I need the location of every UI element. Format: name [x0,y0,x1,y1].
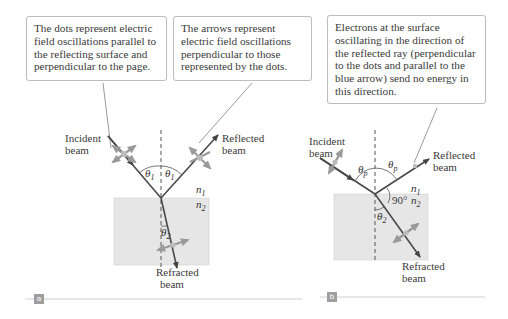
refracted-beam-label-a: Refracted beam [156,266,199,290]
label-line: Refracted [402,260,445,272]
theta1-incident-a: θ1 [145,167,154,182]
panel-tag-a: a [34,294,44,304]
label-line: beam [156,278,199,290]
n2-label-b: n2 [411,194,421,209]
reflected-beam-label-a: Reflected beam [222,132,264,156]
thetap-reflected-b: θp [388,158,397,173]
theta1-reflected-a: θ1 [165,167,174,182]
label-line: beam [433,161,475,173]
label-line: Reflected [433,149,475,161]
n1-label-a: n1 [196,183,206,198]
label-line: Refracted [156,266,199,278]
reflected-ray-b [375,159,429,194]
label-line: Incident [65,132,101,144]
callout-dots-explanation: The dots represent electric field oscill… [26,16,167,81]
refracted-beam-label-b: Refracted beam [402,260,445,284]
label-line: beam [222,144,264,156]
label-line: beam [309,147,345,159]
thetap-incident-b: θp [358,163,367,178]
callout-arrows-explanation: The arrows represent electric field osci… [173,16,312,81]
callout-electrons-text: Electrons at the surface oscillating in … [335,21,476,97]
label-line: beam [65,144,101,156]
theta2-refracted-a: θ2 [161,226,170,241]
incident-beam-label-a: Incident beam [65,132,101,156]
label-line: beam [402,272,445,284]
callout-dots-text: The dots represent electric field oscill… [34,22,156,72]
incident-beam-label-b: Incident beam [309,135,345,159]
callout-electrons-explanation: Electrons at the surface oscillating in … [327,15,486,104]
angle-90-label-b: 90° [392,194,407,206]
n2-label-a: n2 [196,198,206,213]
theta2-refracted-b: θ2 [377,210,386,225]
panel-tag-b: b [327,292,337,302]
label-line: Incident [309,135,345,147]
reflected-beam-label-b: Reflected beam [433,149,475,173]
callout-arrows-text: The arrows represent electric field osci… [181,22,291,72]
label-line: Reflected [222,132,264,144]
